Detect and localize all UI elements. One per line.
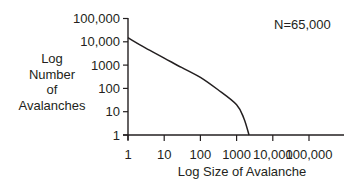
- ticks: 110100100010,000100,000110100100010,0001…: [73, 11, 333, 162]
- y-tick-label: 10,000: [80, 34, 120, 49]
- y-tick-label: 100: [98, 81, 120, 96]
- y-axis-label-line: Log: [12, 51, 92, 67]
- x-tick-label: 1000: [222, 147, 251, 162]
- x-tick-label: 100,000: [286, 147, 333, 162]
- x-tick-label: 10: [157, 147, 171, 162]
- y-tick-label: 1: [113, 128, 120, 143]
- y-tick-label: 100,000: [73, 11, 120, 26]
- distribution-curve: [128, 38, 249, 135]
- sample-size-annotation: N=65,000: [274, 17, 331, 32]
- x-tick-label: 1: [124, 147, 131, 162]
- x-tick-label: 100: [190, 147, 212, 162]
- axes: [123, 18, 344, 140]
- y-tick-label: 10: [106, 104, 120, 119]
- y-tick-label: 1000: [91, 58, 120, 73]
- x-axis-label: Log Size of Avalanche: [120, 164, 364, 179]
- y-axis-label-line: of: [12, 82, 92, 98]
- y-axis-label-line: Number: [12, 67, 92, 83]
- y-axis-label: Log Number of Avalanches: [12, 51, 92, 113]
- data-series: [128, 38, 249, 135]
- y-axis-label-line: Avalanches: [12, 98, 92, 114]
